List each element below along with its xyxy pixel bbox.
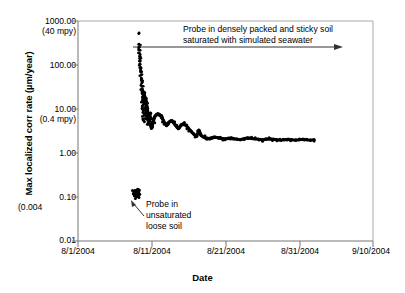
- plot-frame: [78, 21, 373, 241]
- plot-svg: [0, 0, 405, 293]
- upper-annotation-arrow: [133, 44, 343, 50]
- lower-annotation-pointer: [131, 200, 144, 216]
- y-axis-tick-marks: [72, 21, 78, 241]
- data-points-layer: [131, 32, 316, 201]
- x-axis-tick-marks: [78, 241, 373, 247]
- chart-figure: Max localized corr rate (µm/year) Date 1…: [0, 0, 405, 293]
